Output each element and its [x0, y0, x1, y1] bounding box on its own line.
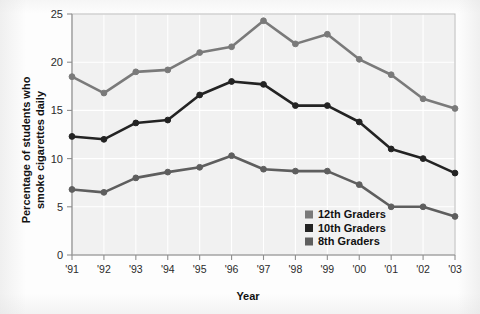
y-tick-label: 15: [51, 104, 63, 116]
data-point-marker: [293, 168, 299, 174]
data-point-marker: [133, 69, 139, 75]
y-tick-label: 0: [57, 249, 63, 261]
y-tick-label: 10: [51, 153, 63, 165]
data-point-marker: [388, 204, 394, 210]
data-point-marker: [293, 41, 299, 47]
data-point-marker: [69, 187, 75, 193]
data-point-marker: [356, 119, 362, 125]
data-point-marker: [229, 79, 235, 85]
legend-label: 12th Graders: [318, 208, 386, 220]
data-point-marker: [101, 136, 107, 142]
data-point-marker: [356, 56, 362, 62]
x-tick-label: '99: [320, 263, 334, 275]
data-point-marker: [197, 92, 203, 98]
data-point-marker: [229, 153, 235, 159]
chart-canvas: 0510152025 '91'92'93'94'95'96'97'98'99'0…: [0, 0, 480, 314]
data-point-marker: [420, 156, 426, 162]
data-point-marker: [261, 81, 267, 87]
x-tick-label: '03: [448, 263, 462, 275]
x-axis-title: Year: [236, 290, 260, 302]
y-axis-ticks: 0510152025: [51, 8, 72, 261]
data-point-marker: [452, 214, 458, 220]
x-tick-label: '92: [97, 263, 111, 275]
data-point-marker: [261, 166, 267, 172]
data-point-marker: [197, 50, 203, 56]
x-tick-label: '94: [161, 263, 175, 275]
data-point-marker: [133, 175, 139, 181]
x-axis-ticks: '91'92'93'94'95'96'97'98'99'00'01'02'03: [65, 255, 462, 275]
legend-item[interactable]: 10th Graders: [305, 222, 386, 234]
x-tick-label: '91: [65, 263, 79, 275]
data-point-marker: [324, 103, 330, 109]
y-tick-label: 5: [57, 201, 63, 213]
y-tick-label: 20: [51, 56, 63, 68]
data-point-marker: [388, 72, 394, 78]
data-point-marker: [452, 170, 458, 176]
data-point-marker: [324, 31, 330, 37]
data-point-marker: [229, 44, 235, 50]
x-tick-label: '01: [384, 263, 398, 275]
data-point-marker: [165, 169, 171, 175]
data-point-marker: [388, 146, 394, 152]
data-point-marker: [69, 74, 75, 80]
x-tick-label: '95: [193, 263, 207, 275]
data-point-marker: [420, 96, 426, 102]
data-point-marker: [356, 182, 362, 188]
data-point-marker: [69, 134, 75, 140]
x-tick-label: '93: [129, 263, 143, 275]
data-point-marker: [133, 120, 139, 126]
data-point-marker: [101, 189, 107, 195]
chart-legend[interactable]: 12th Graders10th Graders8th Graders: [305, 208, 386, 247]
data-point-marker: [101, 90, 107, 96]
legend-label: 10th Graders: [318, 222, 386, 234]
data-point-marker: [420, 204, 426, 210]
legend-item[interactable]: 12th Graders: [305, 208, 386, 220]
x-tick-label: '02: [416, 263, 430, 275]
legend-swatch-icon: [305, 224, 313, 232]
x-tick-label: '96: [225, 263, 239, 275]
x-tick-label: '00: [352, 263, 366, 275]
data-point-marker: [197, 164, 203, 170]
data-point-marker: [165, 117, 171, 123]
legend-swatch-icon: [305, 211, 313, 219]
data-point-marker: [324, 168, 330, 174]
data-point-marker: [452, 106, 458, 112]
legend-swatch-icon: [305, 238, 313, 246]
y-tick-label: 25: [51, 8, 63, 20]
x-tick-label: '97: [257, 263, 271, 275]
data-point-marker: [165, 67, 171, 73]
legend-label: 8th Graders: [318, 235, 380, 247]
data-point-marker: [293, 103, 299, 109]
line-chart-svg: 0510152025 '91'92'93'94'95'96'97'98'99'0…: [0, 0, 480, 314]
y-axis-title-line2: smoke cigarettes daily: [34, 90, 46, 209]
y-axis-title-line1: Percentage of students who: [20, 76, 32, 223]
x-tick-label: '98: [289, 263, 303, 275]
chart-figure: 0510152025 '91'92'93'94'95'96'97'98'99'0…: [0, 0, 480, 314]
data-point-marker: [261, 18, 267, 24]
